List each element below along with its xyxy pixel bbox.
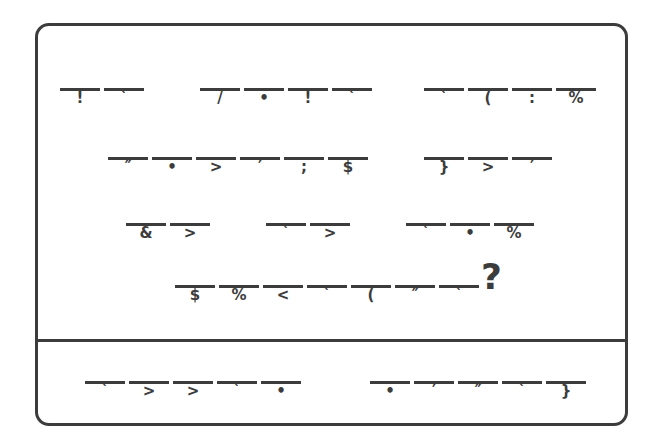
- cipher-glyph: %: [556, 90, 596, 107]
- answer-blank[interactable]: /: [200, 88, 240, 122]
- answer-blank[interactable]: `: [266, 223, 306, 257]
- answer-blank[interactable]: }: [546, 381, 586, 415]
- cipher-glyph: &: [126, 225, 166, 242]
- cipher-glyph: ″: [395, 287, 435, 304]
- cipher-glyph: <: [263, 287, 303, 304]
- cipher-glyph: >: [310, 225, 350, 242]
- cipher-glyph: ″: [108, 159, 148, 176]
- answer-blank[interactable]: `: [439, 285, 479, 319]
- cipher-glyph: •: [370, 383, 410, 400]
- cipher-glyph: `: [406, 225, 446, 242]
- answer-blank[interactable]: >: [170, 223, 210, 257]
- blank-row: `>>`••′″`}: [0, 381, 661, 415]
- answer-blank[interactable]: ″: [108, 157, 148, 191]
- cipher-glyph: `: [266, 225, 306, 242]
- cipher-glyph: `: [424, 90, 464, 107]
- cipher-glyph: `: [502, 383, 542, 400]
- answer-blank[interactable]: •: [152, 157, 192, 191]
- answer-blank[interactable]: !: [288, 88, 328, 122]
- cipher-glyph: >: [170, 225, 210, 242]
- answer-blank[interactable]: `: [406, 223, 446, 257]
- blank-row: !`/•!``(:%: [0, 88, 661, 122]
- answer-blank[interactable]: ;: [284, 157, 324, 191]
- worksheet-page: !`/•!``(:%″•>′;$}>′&>`>`•%$%<`(″` `>>`••…: [0, 0, 661, 447]
- answer-blank[interactable]: >: [468, 157, 508, 191]
- cipher-glyph: >: [468, 159, 508, 176]
- answer-blank[interactable]: %: [494, 223, 534, 257]
- cipher-glyph: (: [351, 287, 391, 304]
- answer-blank[interactable]: ″: [458, 381, 498, 415]
- answer-blank[interactable]: >: [173, 381, 213, 415]
- answer-blank[interactable]: :: [512, 88, 552, 122]
- cipher-glyph: (: [468, 90, 508, 107]
- answer-blank[interactable]: >: [196, 157, 236, 191]
- answer-blank[interactable]: •: [244, 88, 284, 122]
- cipher-glyph: ′: [240, 159, 280, 176]
- cipher-glyph: `: [307, 287, 347, 304]
- blank-row: &>`>`•%: [0, 223, 661, 257]
- cipher-glyph: ;: [284, 159, 324, 176]
- cipher-glyph: >: [129, 383, 169, 400]
- cipher-glyph: ′: [414, 383, 454, 400]
- answer-blank[interactable]: `: [217, 381, 257, 415]
- answer-blank[interactable]: •: [370, 381, 410, 415]
- cipher-glyph: `: [439, 287, 479, 304]
- answer-blank[interactable]: •: [450, 223, 490, 257]
- blank-row: ″•>′;$}>′: [0, 157, 661, 191]
- cipher-glyph: ′: [512, 159, 552, 176]
- answer-blank[interactable]: %: [556, 88, 596, 122]
- cipher-glyph: %: [494, 225, 534, 242]
- cipher-glyph: }: [424, 159, 464, 176]
- answer-blank[interactable]: !: [60, 88, 100, 122]
- blank-row: $%<`(″`: [0, 285, 661, 319]
- cipher-glyph: •: [261, 383, 301, 400]
- cipher-glyph: :: [512, 90, 552, 107]
- cipher-glyph: }: [546, 383, 586, 400]
- cipher-glyph: %: [219, 287, 259, 304]
- answer-blank[interactable]: <: [263, 285, 303, 319]
- answer-blank[interactable]: >: [310, 223, 350, 257]
- section-divider: [35, 339, 628, 342]
- answer-blank[interactable]: `: [502, 381, 542, 415]
- cipher-glyph: •: [152, 159, 192, 176]
- cipher-glyph: !: [288, 90, 328, 107]
- answer-blank[interactable]: `: [424, 88, 464, 122]
- answer-blank[interactable]: >: [129, 381, 169, 415]
- answer-blank[interactable]: $: [328, 157, 368, 191]
- cipher-glyph: `: [85, 383, 125, 400]
- cipher-glyph: $: [328, 159, 368, 176]
- answer-blank[interactable]: `: [332, 88, 372, 122]
- cipher-glyph: `: [332, 90, 372, 107]
- answer-blank[interactable]: ″: [395, 285, 435, 319]
- answer-blank[interactable]: •: [261, 381, 301, 415]
- cipher-glyph: `: [104, 90, 144, 107]
- cipher-glyph: $: [175, 287, 215, 304]
- cipher-glyph: •: [450, 225, 490, 242]
- cipher-glyph: >: [196, 159, 236, 176]
- cipher-glyph: >: [173, 383, 213, 400]
- answer-blank[interactable]: `: [307, 285, 347, 319]
- cipher-glyph: ″: [458, 383, 498, 400]
- cipher-glyph: /: [200, 90, 240, 107]
- cipher-glyph: •: [244, 90, 284, 107]
- trailing-question-mark: ?: [481, 259, 502, 295]
- cipher-glyph: !: [60, 90, 100, 107]
- answer-blank[interactable]: ′: [414, 381, 454, 415]
- answer-blank[interactable]: $: [175, 285, 215, 319]
- answer-blank[interactable]: ′: [240, 157, 280, 191]
- answer-blank[interactable]: (: [351, 285, 391, 319]
- answer-blank[interactable]: }: [424, 157, 464, 191]
- answer-blank[interactable]: (: [468, 88, 508, 122]
- answer-blank[interactable]: ′: [512, 157, 552, 191]
- answer-blank[interactable]: %: [219, 285, 259, 319]
- cipher-glyph: `: [217, 383, 257, 400]
- answer-blank[interactable]: &: [126, 223, 166, 257]
- answer-blank[interactable]: `: [85, 381, 125, 415]
- answer-blank[interactable]: `: [104, 88, 144, 122]
